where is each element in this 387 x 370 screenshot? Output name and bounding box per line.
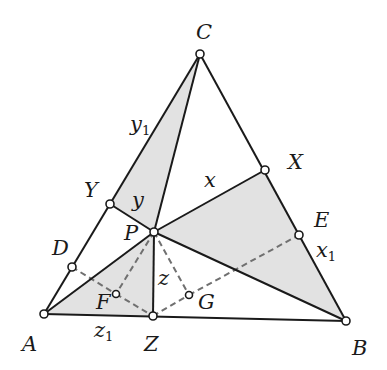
label-c: C (196, 22, 212, 43)
shaded-triangle-cyp (110, 54, 200, 232)
label-x1-sub: 1 (328, 249, 336, 264)
label-y: Y (84, 180, 98, 201)
geometry-diagram: C A B X Y Z P D E F G x y z x1 y1 z1 (0, 0, 387, 370)
label-y1-sub: 1 (142, 123, 150, 138)
label-z1-base: z (94, 318, 105, 342)
label-x: X (288, 152, 303, 173)
label-z1-sub: 1 (105, 329, 113, 344)
label-length-y: y (132, 190, 144, 211)
label-d: D (52, 238, 69, 259)
point-d (68, 263, 76, 271)
label-a: A (22, 334, 37, 355)
label-y1-base: y (130, 112, 142, 136)
point-y (106, 200, 114, 208)
point-x (261, 166, 269, 174)
segment-pz (153, 232, 154, 316)
label-f: F (96, 292, 111, 313)
label-g: G (198, 292, 215, 313)
point-f (113, 291, 120, 298)
label-length-z1: z1 (94, 320, 113, 343)
segment-zg (153, 295, 189, 316)
label-length-y1: y1 (130, 114, 150, 137)
label-z: Z (144, 334, 159, 355)
label-e: E (314, 210, 329, 231)
point-g (186, 292, 193, 299)
point-c (196, 50, 204, 58)
label-length-x: x (204, 170, 216, 191)
point-a (40, 310, 48, 318)
side-ab (44, 314, 346, 321)
label-p: P (124, 223, 138, 244)
point-z (149, 312, 157, 320)
point-p (150, 228, 158, 236)
point-b (342, 317, 350, 325)
label-x1-base: x (316, 238, 328, 262)
label-b: B (352, 338, 367, 359)
diagram-canvas (0, 0, 387, 370)
point-e (295, 231, 303, 239)
label-length-z: z (158, 268, 169, 289)
label-length-x1: x1 (316, 240, 336, 263)
